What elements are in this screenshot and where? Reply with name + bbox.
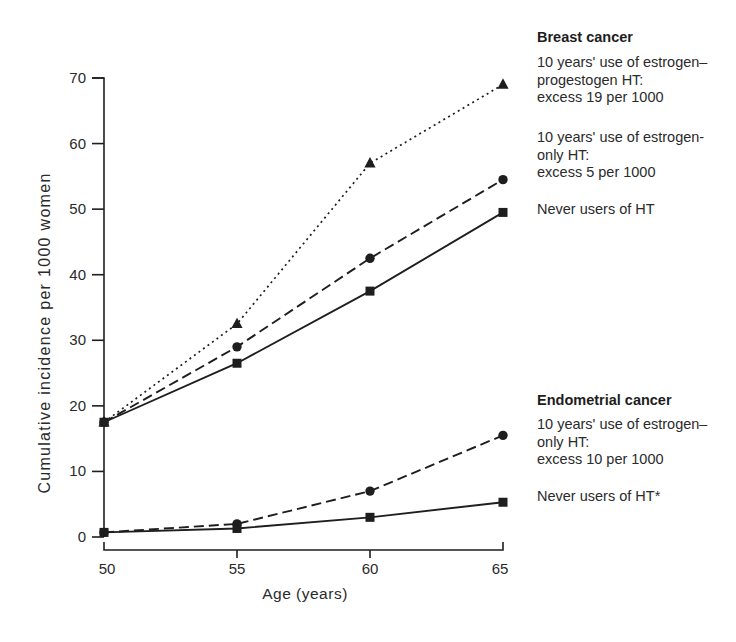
y-axis-tick-label: 50	[69, 200, 86, 217]
triangle-marker	[364, 157, 375, 167]
circle-marker	[232, 342, 241, 351]
y-axis-tick-label: 40	[69, 266, 86, 283]
square-marker	[233, 524, 242, 533]
y-axis-title: Cumulative incidence per 1000 women	[36, 133, 58, 533]
breast-estrogen-only-annotation: 10 years' use of estrogen- only HT: exce…	[537, 129, 735, 182]
square-marker	[366, 287, 375, 296]
y-axis-tick-label: 30	[69, 331, 86, 348]
y-axis-tick-label: 60	[69, 135, 86, 152]
x-axis-tick-label: 55	[229, 560, 246, 577]
square-marker	[499, 208, 508, 217]
circle-marker	[498, 431, 507, 440]
y-axis-tick-label: 10	[69, 462, 86, 479]
triangle-marker	[497, 78, 508, 88]
series-line-1	[104, 180, 503, 423]
square-marker	[100, 528, 109, 537]
x-axis-tick-label: 60	[362, 560, 379, 577]
square-marker	[233, 359, 242, 368]
triangle-marker	[231, 318, 242, 328]
circle-marker	[365, 486, 374, 495]
y-axis-tick-label: 0	[78, 528, 86, 545]
circle-marker	[365, 254, 374, 263]
series-line-3	[104, 435, 503, 532]
breast-never-users-annotation: Never users of HT	[537, 201, 735, 219]
x-axis-line	[104, 542, 503, 550]
breast-estrogen-progestogen-annotation: 10 years' use of estrogen– progestogen H…	[537, 54, 735, 107]
square-marker	[499, 498, 508, 507]
series-line-0	[104, 85, 503, 423]
endometrial-cancer-group-label: Endometrial cancer	[537, 392, 735, 410]
breast-cancer-group-label: Breast cancer	[537, 29, 735, 47]
y-axis-line	[92, 78, 104, 537]
square-marker	[100, 418, 109, 427]
x-axis-tick-label: 65	[492, 560, 509, 577]
endometrial-never-users-annotation: Never users of HT*	[537, 488, 735, 506]
square-marker	[366, 513, 375, 522]
endometrial-estrogen-only-annotation: 10 years' use of estrogen– only HT: exce…	[537, 416, 735, 469]
figure-canvas: 01020304050607050556065 Cumulative incid…	[0, 0, 736, 642]
y-axis-tick-label: 70	[69, 69, 86, 86]
circle-marker	[498, 175, 507, 184]
x-axis-tick-label: 50	[99, 560, 116, 577]
y-axis-tick-label: 20	[69, 397, 86, 414]
x-axis-title: Age (years)	[205, 585, 405, 603]
